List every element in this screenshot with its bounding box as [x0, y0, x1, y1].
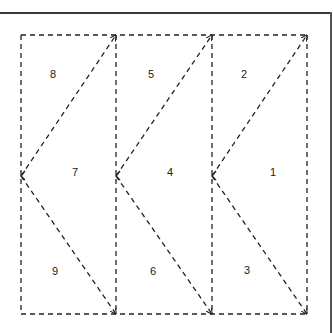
arrow-down-col-0 [21, 176, 116, 314]
region-label-2: 2 [241, 68, 247, 80]
region-label-4: 4 [167, 166, 173, 178]
arrow-up-col-2 [212, 35, 307, 176]
region-label-6: 6 [150, 265, 156, 277]
arrow-down-col-1 [116, 176, 212, 314]
arrow-up-col-1 [116, 35, 212, 176]
arrow-up-col-0 [21, 35, 116, 176]
region-label-9: 9 [52, 265, 58, 277]
region-label-1: 1 [270, 166, 276, 178]
zigzag-grid-diagram: 8 7 9 5 4 6 2 1 3 [0, 0, 333, 333]
region-label-7: 7 [72, 166, 78, 178]
region-label-3: 3 [244, 264, 250, 276]
region-label-8: 8 [50, 68, 56, 80]
arrow-down-col-2 [212, 176, 307, 314]
region-label-5: 5 [148, 68, 154, 80]
